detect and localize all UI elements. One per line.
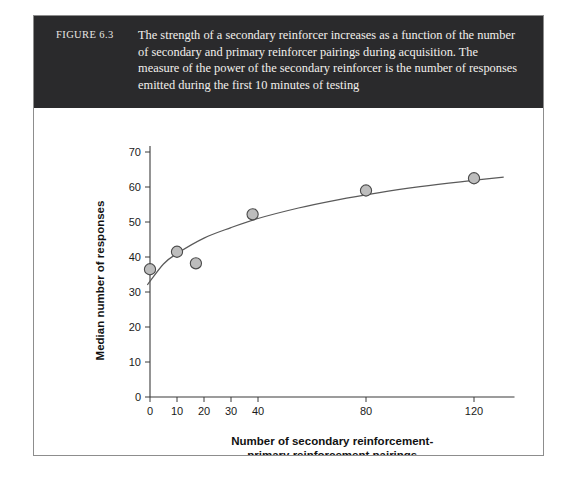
y-tick-label: 0: [135, 391, 141, 403]
data-point-marker: [468, 173, 479, 184]
plot-area: 010203040506070 01020304080120 Median nu…: [34, 108, 543, 455]
y-tick-label: 50: [129, 216, 141, 228]
caption-banner: FIGURE 6.3 The strength of a secondary r…: [34, 16, 543, 108]
data-point-marker: [190, 258, 201, 269]
y-tick-label: 70: [129, 146, 141, 158]
figure-number-label: FIGURE 6.3: [34, 27, 138, 40]
data-point-marker: [360, 185, 371, 196]
y-tick-label: 10: [129, 356, 141, 368]
scatter-chart: 010203040506070 01020304080120 Median nu…: [34, 108, 543, 455]
x-axis-title-line2: primary reinforcement pairings: [247, 449, 417, 455]
figure-root: FIGURE 6.3 The strength of a secondary r…: [0, 0, 578, 479]
figure-caption-text: The strength of a secondary reinforcer i…: [138, 27, 533, 93]
x-axis-ticks: 01020304080120: [147, 397, 483, 417]
x-tick-label: 0: [147, 405, 153, 417]
x-tick-label: 80: [360, 405, 372, 417]
y-tick-label: 40: [129, 251, 141, 263]
figure-frame: FIGURE 6.3 The strength of a secondary r…: [33, 15, 544, 456]
y-tick-label: 30: [129, 286, 141, 298]
y-tick-label: 60: [129, 181, 141, 193]
y-tick-label: 20: [129, 321, 141, 333]
data-points: [144, 173, 479, 275]
x-axis-title-line1: Number of secondary reinforcement-: [231, 435, 433, 447]
fitted-curve: [147, 177, 503, 285]
x-tick-label: 40: [252, 405, 264, 417]
data-point-marker: [247, 209, 258, 220]
data-point-marker: [144, 264, 155, 275]
y-axis-title: Median number of responses: [94, 201, 106, 361]
data-point-marker: [171, 246, 182, 257]
x-tick-label: 120: [465, 405, 483, 417]
x-tick-label: 30: [225, 405, 237, 417]
x-tick-label: 10: [171, 405, 183, 417]
x-tick-label: 20: [198, 405, 210, 417]
